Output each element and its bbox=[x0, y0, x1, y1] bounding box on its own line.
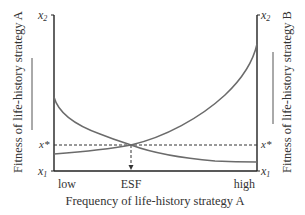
x-tick-low: low bbox=[58, 177, 76, 191]
left-y-axis-title: Fitness of life-history strategy A bbox=[11, 11, 25, 173]
arrow-head-icon bbox=[129, 165, 134, 170]
left-x1-label: x1 bbox=[37, 164, 47, 179]
right-y-axis-title: Fitness of life-history strategy B bbox=[280, 11, 294, 173]
x-tick-high: high bbox=[234, 177, 255, 191]
x-tick-esf: ESF bbox=[121, 177, 142, 191]
curve-strategy-b bbox=[54, 44, 257, 154]
right-xstar-label: x* bbox=[260, 138, 272, 150]
left-xstar-label: x* bbox=[38, 138, 50, 150]
right-x2-label: x2 bbox=[260, 8, 270, 23]
left-x2-label: x2 bbox=[37, 8, 47, 23]
curve-strategy-a bbox=[54, 97, 257, 162]
chart: x2 x* x1 x2 x* x1 low ESF high Frequency… bbox=[0, 0, 305, 215]
right-x1-label: x1 bbox=[260, 164, 270, 179]
x-axis-title: Frequency of life-history strategy A bbox=[65, 194, 244, 208]
